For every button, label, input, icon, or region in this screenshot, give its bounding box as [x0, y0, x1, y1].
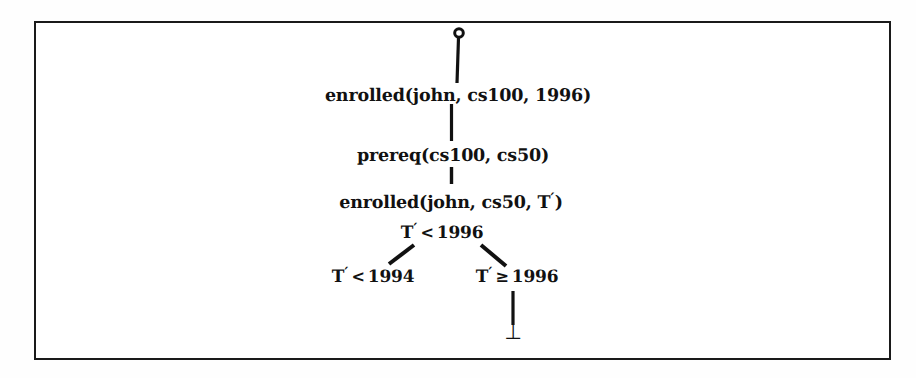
edge-root-to-goal1: [457, 38, 459, 83]
root-node-circle: [455, 29, 464, 38]
variable-t-right: T: [476, 267, 488, 287]
constraint-node-root: T′<1996: [401, 221, 484, 243]
constraint-node-right: T′≥1996: [476, 265, 559, 287]
goal-node-2-text: prereq(cs100, cs50): [357, 146, 549, 166]
goal-node-3-suffix: ): [555, 193, 563, 213]
year-value-right: 1996: [512, 267, 559, 287]
goal-node-3: enrolled(john, cs50, T′): [339, 191, 563, 213]
prime-mark-left: ′: [344, 265, 347, 281]
goal-node-2: prereq(cs100, cs50): [357, 146, 549, 166]
figure-root: enrolled(john, cs100, 1996) prereq(cs100…: [0, 0, 916, 378]
less-than-operator-root: <: [420, 223, 433, 242]
prime-mark-root: ′: [413, 221, 416, 237]
greater-equal-operator-right: ≥: [495, 267, 508, 286]
prime-mark-right: ′: [488, 265, 491, 281]
variable-t-root: T: [401, 223, 413, 243]
edge-branch-left: [389, 245, 414, 264]
tree-edges: [0, 0, 916, 378]
year-value-left: 1994: [368, 267, 415, 287]
goal-node-3-prefix: enrolled(john, cs50, T: [339, 193, 550, 213]
goal-node-1-text: enrolled(john, cs100, 1996): [325, 86, 591, 106]
less-than-operator-left: <: [351, 267, 364, 286]
edge-branch-right: [481, 245, 506, 266]
year-value-root: 1996: [437, 223, 484, 243]
goal-node-1: enrolled(john, cs100, 1996): [325, 86, 591, 106]
proof-tree-canvas: enrolled(john, cs100, 1996) prereq(cs100…: [0, 0, 916, 378]
failure-bottom-symbol: ⊥: [504, 322, 521, 342]
variable-t-left: T: [332, 267, 344, 287]
constraint-node-left: T′<1994: [332, 265, 415, 287]
